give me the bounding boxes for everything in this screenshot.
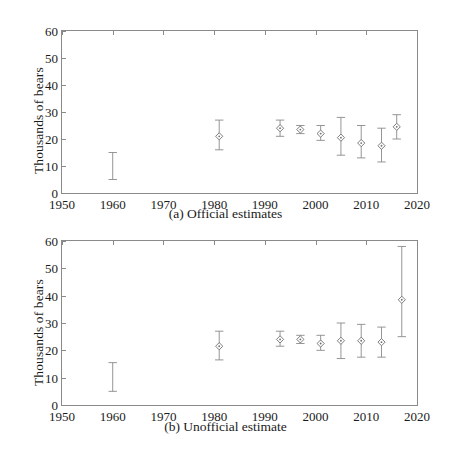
error-bar-point (337, 323, 345, 359)
error-bar-point (276, 331, 284, 346)
y-tick-label: 60 (45, 25, 58, 38)
figure-container: Thousands of bears 010203040506019501960… (0, 0, 451, 459)
error-bar-point (296, 335, 304, 343)
panel-official-estimates: Thousands of bears 010203040506019501960… (0, 0, 451, 230)
y-tick-label: 40 (45, 79, 58, 92)
y-tick-mark (62, 405, 66, 406)
panel-caption-b: (b) Unofficial estimate (0, 419, 451, 435)
y-tick-label: 60 (45, 235, 58, 248)
error-bar-point (377, 327, 385, 357)
plot-area-b: 0102030405060195019601970198019902000201… (61, 240, 418, 406)
y-tick-mark (62, 193, 66, 194)
error-bar-point (398, 246, 406, 336)
error-bar-point (276, 120, 284, 136)
error-bar-point (337, 117, 345, 155)
y-tick-label: 20 (45, 344, 58, 357)
y-tick-label: 20 (45, 133, 58, 146)
data-series-b (62, 241, 417, 405)
y-tick-label: 30 (45, 317, 58, 330)
y-tick-label: 30 (45, 106, 58, 119)
panel-caption-a: (a) Official estimates (0, 206, 451, 222)
error-bar-point (393, 115, 401, 139)
error-bar-point (316, 335, 324, 350)
y-tick-label: 40 (45, 289, 58, 302)
error-bar-point (357, 126, 365, 158)
error-bar-point (357, 324, 365, 357)
error-bar-point (215, 331, 223, 360)
data-series-a (62, 31, 417, 193)
error-bar-point (109, 363, 117, 392)
y-tick-label: 50 (45, 262, 58, 275)
panel-unofficial-estimate: Thousands of bears 010203040506019501960… (0, 229, 451, 459)
y-tick-label: 10 (45, 160, 58, 173)
error-bar-point (296, 126, 304, 134)
y-tick-label: 10 (45, 371, 58, 384)
error-bar-point (377, 128, 385, 162)
error-bar-point (109, 153, 117, 180)
x-tick-mark (417, 241, 418, 245)
y-tick-label: 50 (45, 52, 58, 65)
error-bar-point (215, 120, 223, 150)
x-tick-mark (417, 31, 418, 35)
error-bar-point (316, 126, 324, 141)
plot-area-a: 0102030405060195019601970198019902000201… (61, 30, 418, 194)
